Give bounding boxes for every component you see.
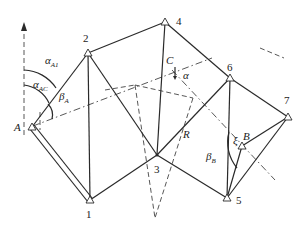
label-beta-A: βA	[58, 90, 69, 105]
label-beta-B: βB	[205, 150, 216, 165]
label-alpha-AC: αAC	[33, 78, 48, 93]
station-4	[161, 18, 169, 25]
label-A: A	[13, 121, 21, 133]
station-B	[238, 142, 246, 149]
network-edges	[32, 22, 288, 200]
label-1: 1	[86, 208, 92, 220]
line-C-B	[172, 70, 275, 180]
label-B: B	[243, 130, 250, 142]
label-alpha: α	[183, 69, 189, 81]
label-4: 4	[176, 15, 182, 27]
label-R: R	[182, 128, 190, 140]
traverse-diagram: A 1 2 3 4 5 6 7 B C α R ξ αA1 αAC βA βB	[0, 0, 303, 225]
label-C: C	[166, 54, 174, 66]
label-3: 3	[154, 163, 160, 175]
label-5: 5	[236, 194, 242, 206]
label-6: 6	[227, 61, 233, 73]
station-1	[86, 196, 94, 203]
labels: A 1 2 3 4 5 6 7 B C α R ξ αA1 αAC βA βB	[13, 15, 290, 220]
station-3	[156, 154, 159, 157]
station-7	[284, 113, 292, 120]
label-xi: ξ	[233, 134, 238, 147]
label-2: 2	[83, 32, 89, 44]
known-side-A-1	[30, 125, 92, 202]
north-arrow	[21, 22, 27, 135]
label-alpha-A1: αA1	[45, 54, 59, 69]
label-7: 7	[284, 94, 290, 106]
